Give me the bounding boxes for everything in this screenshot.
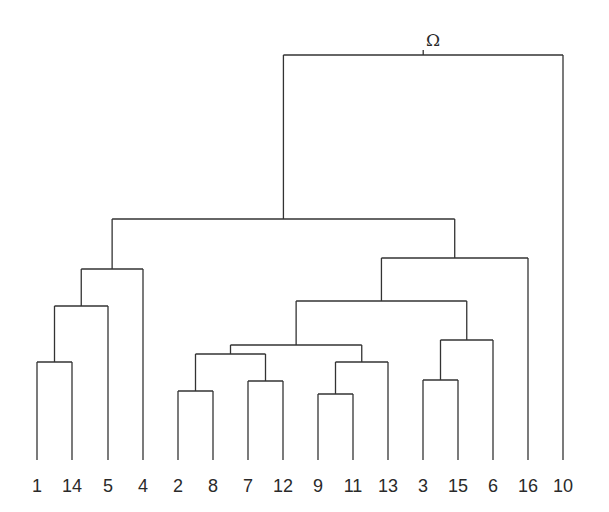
- leaf-label: 6: [488, 476, 498, 496]
- leaf-label: 1: [32, 476, 42, 496]
- leaf-label: 7: [243, 476, 253, 496]
- leaf-labels: 11454287129111331561610: [32, 476, 573, 496]
- leaf-label: 15: [448, 476, 468, 496]
- leaf-label: 14: [62, 476, 82, 496]
- leaf-label: 12: [273, 476, 293, 496]
- leaf-label: 16: [518, 476, 538, 496]
- root-label-omega: Ω: [426, 30, 440, 50]
- leaf-label: 11: [344, 476, 363, 496]
- dendrogram: 11454287129111331561610 Ω: [0, 0, 609, 512]
- leaf-label: 2: [173, 476, 183, 496]
- leaf-label: 3: [418, 476, 428, 496]
- leaf-label: 5: [103, 476, 113, 496]
- leaf-label: 8: [208, 476, 218, 496]
- leaf-label: 13: [378, 476, 398, 496]
- leaf-label: 4: [138, 476, 148, 496]
- dendrogram-links: [37, 50, 563, 460]
- leaf-label: 10: [553, 476, 573, 496]
- leaf-label: 9: [313, 476, 323, 496]
